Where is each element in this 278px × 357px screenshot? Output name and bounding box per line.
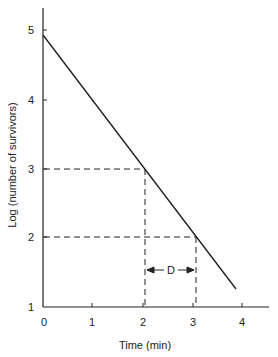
d-label: D xyxy=(167,264,175,276)
survival-curve xyxy=(43,35,236,289)
x-tick-label: 1 xyxy=(89,316,95,328)
y-tick-label: 5 xyxy=(28,24,34,36)
y-tick-label: 4 xyxy=(28,94,34,106)
y-axis-title: Log (number of survivors) xyxy=(6,102,18,227)
survival-chart: 5 4 3 2 1 0 1 2 3 4 Time (min) Log (numb… xyxy=(0,0,278,357)
x-tick-label: 4 xyxy=(239,316,245,328)
x-tick-label: 3 xyxy=(190,316,196,328)
y-tick-label: 2 xyxy=(28,231,34,243)
reference-lines xyxy=(44,169,196,307)
x-tick-label: 2 xyxy=(140,316,146,328)
y-tick-label: 3 xyxy=(28,163,34,175)
x-axis-title: Time (min) xyxy=(119,339,171,351)
y-tick-label: 1 xyxy=(28,301,34,313)
x-tick-label: 0 xyxy=(41,316,47,328)
